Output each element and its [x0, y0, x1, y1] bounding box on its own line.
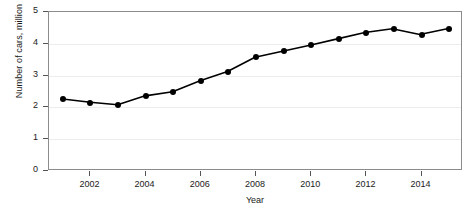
y-axis-title: Number of cars, million [14, 0, 24, 116]
x-axis-tick-label: 2004 [125, 179, 165, 189]
x-axis-tick [255, 171, 256, 176]
x-axis-title: Year [48, 195, 462, 205]
x-axis-tick [421, 171, 422, 176]
x-axis-tick-label: 2008 [235, 179, 275, 189]
plot-area [48, 11, 462, 170]
data-point-marker [419, 32, 425, 38]
line-path [49, 12, 461, 170]
x-axis-tick-label: 2006 [180, 179, 220, 189]
x-axis-tick-label: 2012 [345, 179, 385, 189]
x-axis-tick [200, 171, 201, 176]
x-axis-tick [310, 171, 311, 176]
x-axis-tick-label: 2010 [290, 179, 330, 189]
y-axis-tick-label: 3 [22, 70, 38, 79]
x-axis-tick [365, 171, 366, 176]
data-point-marker [198, 78, 204, 84]
y-axis-tick-label: 5 [22, 6, 38, 15]
y-axis-tick-label: 4 [22, 38, 38, 47]
x-axis-tick [89, 171, 90, 176]
x-axis-tick [145, 171, 146, 176]
y-axis-tick-label: 2 [22, 101, 38, 110]
data-point-marker [446, 26, 452, 32]
data-point-marker [143, 93, 149, 99]
data-point-marker [391, 26, 397, 32]
x-axis-tick-label: 2014 [401, 179, 441, 189]
chart-figure: Number of cars, million 012345 200220042… [0, 0, 474, 218]
y-axis-tick-label: 1 [22, 133, 38, 142]
y-axis-tick [43, 170, 48, 171]
data-point-marker [336, 36, 342, 42]
y-axis-tick-label: 0 [22, 165, 38, 174]
x-axis-tick-label: 2002 [69, 179, 109, 189]
data-series-cars [49, 12, 461, 169]
